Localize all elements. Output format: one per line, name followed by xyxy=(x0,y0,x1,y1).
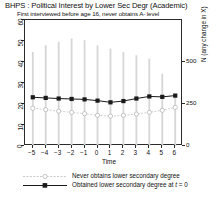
series-point xyxy=(121,99,125,103)
x-axis-tick-label: 6 xyxy=(167,149,181,156)
n-bar xyxy=(58,42,60,146)
legend-label-never-obtains: Never obtains lower secondary degree xyxy=(72,172,180,179)
series-point xyxy=(160,108,164,112)
series-point xyxy=(147,94,151,98)
series-point xyxy=(44,96,48,100)
x-axis-tick xyxy=(84,145,85,148)
chart-title: BHPS : Political Interest by Lower Sec D… xyxy=(5,1,187,10)
x-axis-tick xyxy=(45,145,46,148)
chart-subtitle: First interviewed before age 16, never o… xyxy=(17,10,159,17)
x-axis-tick xyxy=(32,145,33,148)
y-axis-right-tick xyxy=(182,145,185,146)
x-axis-title: Time xyxy=(0,158,218,165)
legend-marker-filled-square xyxy=(22,181,68,190)
chart-legend: Never obtains lower secondary degree Obt… xyxy=(22,172,202,190)
y-axis-right-tick-label: 500 xyxy=(186,57,196,64)
legend-item-never-obtains: Never obtains lower secondary degree xyxy=(22,172,202,181)
y-axis-tick-label-text: 40 xyxy=(17,61,24,68)
series-point xyxy=(108,114,112,118)
n-bar xyxy=(174,96,176,146)
x-axis-tick xyxy=(135,145,136,148)
legend-marker-open-circle xyxy=(22,172,68,181)
n-bar xyxy=(45,45,47,146)
x-axis-tick xyxy=(71,145,72,148)
legend-label-obtained: Obtained lower secondary degree at t = 0 xyxy=(72,181,188,188)
series-point xyxy=(173,94,177,98)
legend-label-obtained-tail: = 0 xyxy=(177,181,188,188)
series-line xyxy=(33,107,175,116)
series-point xyxy=(121,113,125,117)
y-axis-tick-label: 10 xyxy=(0,120,20,128)
y-axis-tick-label: 40 xyxy=(0,57,20,65)
series-point xyxy=(173,105,177,109)
legend-label-obtained-head: Obtained lower secondary degree at xyxy=(72,181,175,188)
series-point xyxy=(31,106,35,110)
y-axis-tick-label: 50 xyxy=(0,36,20,44)
x-axis-tick-label: 2 xyxy=(115,149,129,156)
x-axis-tick xyxy=(58,145,59,148)
y-axis-tick-label-text: 30 xyxy=(17,82,24,89)
plot-svg xyxy=(25,20,183,146)
n-bar xyxy=(110,49,112,146)
y-axis-tick-label: 0 xyxy=(0,141,20,149)
y-axis-tick-label-text: 60 xyxy=(17,19,24,26)
y-axis-tick-label-text: 50 xyxy=(17,40,24,47)
series-point xyxy=(82,97,86,101)
legend-item-obtained: Obtained lower secondary degree at t = 0 xyxy=(22,181,202,190)
y-axis-tick-label-text: 0 xyxy=(17,145,24,149)
x-axis-tick xyxy=(174,145,175,148)
y-axis-right-tick xyxy=(182,103,185,104)
series-point xyxy=(70,110,74,114)
y-axis-right-tick-label: 0 xyxy=(186,141,189,148)
x-axis-tick-label: −1 xyxy=(77,149,91,156)
series-point xyxy=(147,110,151,114)
x-axis-tick-label: 0 xyxy=(90,149,104,156)
y-axis-tick-label-text: 20 xyxy=(17,103,24,110)
n-bar xyxy=(148,59,150,146)
series-line xyxy=(33,96,175,103)
x-axis-tick xyxy=(148,145,149,148)
series-point xyxy=(70,97,74,101)
x-axis-tick-label: 1 xyxy=(102,149,116,156)
series-point xyxy=(44,108,48,112)
series-point xyxy=(95,113,99,117)
x-axis-tick-label: 4 xyxy=(141,149,155,156)
y-axis-right-title: N (any change in X) xyxy=(200,6,207,62)
x-axis-tick-label: −2 xyxy=(64,149,78,156)
y-axis-tick-label: 20 xyxy=(0,99,20,107)
y-axis-tick-label-text: 10 xyxy=(17,124,24,131)
series-point xyxy=(57,96,61,100)
x-axis-tick xyxy=(97,145,98,148)
series-point xyxy=(134,96,138,100)
x-axis-tick xyxy=(161,145,162,148)
x-axis-tick-label: 5 xyxy=(154,149,168,156)
y-axis-right-tick-label: 250 xyxy=(186,99,196,106)
series-point xyxy=(82,112,86,116)
x-axis-tick-label: −5 xyxy=(25,149,39,156)
y-axis-tick-label: 30 xyxy=(0,78,20,86)
x-axis-tick xyxy=(109,145,110,148)
x-axis-tick xyxy=(122,145,123,148)
n-bar xyxy=(97,45,99,146)
x-axis-tick-label: −4 xyxy=(38,149,52,156)
n-bar xyxy=(84,40,86,146)
y-axis-tick-label: 60 xyxy=(0,15,20,23)
series-point xyxy=(57,109,61,113)
series-point xyxy=(134,112,138,116)
series-point xyxy=(95,99,99,103)
y-axis-right-tick xyxy=(182,61,185,62)
series-point xyxy=(31,95,35,99)
x-axis-tick-label: −3 xyxy=(51,149,65,156)
plot-area xyxy=(24,19,182,145)
n-bar xyxy=(71,38,73,146)
series-point xyxy=(108,100,112,104)
chart-figure: BHPS : Political Interest by Lower Sec D… xyxy=(0,0,218,198)
series-point xyxy=(160,95,164,99)
x-axis-tick-label: 3 xyxy=(128,149,142,156)
